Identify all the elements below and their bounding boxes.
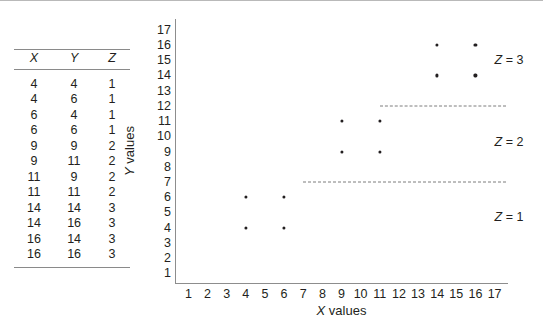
y-tick-label: 10 [149, 130, 171, 143]
y-tick-label: 12 [149, 100, 171, 113]
data-point [244, 196, 247, 199]
table-cell: 1 [94, 108, 130, 124]
y-tick-label: 5 [149, 206, 171, 219]
y-tick-label: 17 [149, 23, 171, 36]
x-tick-label: 7 [300, 288, 307, 301]
table-row: 14163 [14, 216, 130, 232]
table-cell: 6 [54, 92, 94, 108]
group-divider-line [303, 181, 506, 182]
data-point [378, 150, 381, 153]
table-cell: 3 [94, 201, 130, 217]
x-tick-label: 1 [185, 288, 192, 301]
data-point [282, 196, 285, 199]
group-label: Z = 1 [495, 211, 524, 224]
y-axis-title-text: values [122, 126, 137, 164]
table-cell: 1 [94, 92, 130, 108]
table-cell: 14 [14, 201, 54, 217]
table-cell: 11 [54, 185, 94, 201]
table-row: 14143 [14, 201, 130, 217]
data-table-container: X Y Z 4414616416619929112119211112141431… [14, 49, 130, 268]
table-cell: 1 [94, 69, 130, 92]
table-cell: 11 [14, 185, 54, 201]
y-tick-label: 8 [149, 160, 171, 173]
table-cell: 9 [54, 139, 94, 155]
table-cell: 9 [14, 154, 54, 170]
x-tick-label: 12 [392, 288, 406, 301]
scatter-chart: Y values 1234567891011121314151617 12345… [133, 11, 533, 318]
data-point [436, 43, 439, 46]
y-axis-line [175, 19, 176, 284]
x-tick-label: 16 [469, 288, 483, 301]
x-axis-symbol: X [317, 303, 326, 318]
table-row: 461 [14, 92, 130, 108]
y-tick-label: 13 [149, 84, 171, 97]
y-tick-label: 16 [149, 39, 171, 52]
table-row: 11112 [14, 185, 130, 201]
x-tick-label: 6 [281, 288, 288, 301]
y-tick-label: 4 [149, 221, 171, 234]
y-tick-label: 6 [149, 191, 171, 204]
data-point [340, 150, 343, 153]
x-tick-label: 9 [338, 288, 345, 301]
table-cell: 6 [14, 123, 54, 139]
column-header-x: X [14, 50, 54, 70]
y-tick-label: 9 [149, 145, 171, 158]
table-cell: 4 [14, 92, 54, 108]
data-point [436, 74, 439, 77]
table-cell: 14 [54, 201, 94, 217]
table-cell: 11 [14, 170, 54, 186]
y-tick-label: 7 [149, 176, 171, 189]
plot-area: 1234567891011121314151617 12345678910111… [175, 19, 508, 284]
y-tick-label: 15 [149, 54, 171, 67]
x-tick-label: 8 [319, 288, 326, 301]
table-row: 9112 [14, 154, 130, 170]
x-tick-label: 3 [223, 288, 230, 301]
table-row: 661 [14, 123, 130, 139]
column-header-y: Y [54, 50, 94, 70]
table-cell: 3 [94, 232, 130, 248]
table-cell: 14 [54, 232, 94, 248]
table-cell: 4 [14, 69, 54, 92]
data-point [378, 119, 381, 122]
table-cell: 6 [54, 123, 94, 139]
table-cell: 9 [14, 139, 54, 155]
x-tick-label: 13 [411, 288, 425, 301]
y-tick-label: 2 [149, 252, 171, 265]
y-axis-title: Y values [122, 126, 137, 176]
table-row: 16163 [14, 247, 130, 267]
table-cell: 9 [54, 170, 94, 186]
table-cell: 16 [54, 216, 94, 232]
table-cell: 6 [14, 108, 54, 124]
group-label-equals: = [502, 135, 516, 149]
table-cell: 16 [54, 247, 94, 267]
figure-canvas: X Y Z 4414616416619929112119211112141431… [0, 0, 543, 327]
group-label-equals: = [502, 53, 516, 67]
table-cell: 3 [94, 216, 130, 232]
data-point [340, 119, 343, 122]
y-tick-label: 14 [149, 69, 171, 82]
table-cell: 4 [54, 108, 94, 124]
table-cell: 4 [54, 69, 94, 92]
table-cell: 11 [54, 154, 94, 170]
column-header-z: Z [94, 50, 130, 70]
group-label-symbol: Z [495, 135, 503, 149]
data-point [244, 226, 247, 229]
x-axis-title-text: values [329, 303, 367, 318]
x-tick-label: 2 [204, 288, 211, 301]
x-axis-title: X values [175, 303, 508, 318]
group-label-equals: = [502, 210, 516, 224]
table-cell: 2 [94, 185, 130, 201]
x-tick-label: 15 [449, 288, 463, 301]
data-point [474, 43, 477, 46]
group-label-value: 3 [516, 53, 523, 67]
y-tick-label: 11 [149, 115, 171, 128]
group-label-value: 2 [516, 135, 523, 149]
y-tick-label: 1 [149, 267, 171, 280]
group-label-symbol: Z [495, 210, 503, 224]
x-tick-label: 5 [261, 288, 268, 301]
table-cell: 3 [94, 247, 130, 267]
data-point [474, 74, 477, 77]
x-tick-label: 14 [430, 288, 444, 301]
table-row: 641 [14, 108, 130, 124]
table-cell: 14 [14, 216, 54, 232]
